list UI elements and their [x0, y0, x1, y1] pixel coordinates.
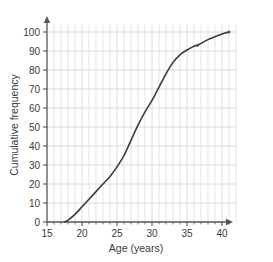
x-tick-labels: 152025303540 — [41, 228, 228, 239]
y-tick-label: 10 — [29, 198, 41, 209]
x-tick-label: 30 — [146, 228, 158, 239]
y-tick-labels: 0102030405060708090100 — [23, 27, 40, 228]
y-tick-label: 0 — [34, 217, 40, 228]
y-tick-label: 50 — [29, 122, 41, 133]
y-tick-label: 80 — [29, 65, 41, 76]
x-tick-label: 15 — [41, 228, 53, 239]
cumulative-frequency-chart: 152025303540 0102030405060708090100 Age … — [0, 0, 273, 262]
x-axis-arrow-icon — [226, 219, 233, 225]
x-tick-label: 40 — [216, 228, 228, 239]
y-tick-label: 30 — [29, 160, 41, 171]
x-tick-label: 35 — [181, 228, 193, 239]
data-point-marker — [228, 31, 231, 34]
x-tick-label: 25 — [111, 228, 123, 239]
y-tick-label: 100 — [23, 27, 40, 38]
x-tick-label: 20 — [76, 228, 88, 239]
y-tick-label: 90 — [29, 46, 41, 57]
y-tick-label: 40 — [29, 141, 41, 152]
y-axis-title: Cumulative frequency — [8, 73, 20, 175]
chart-canvas: 152025303540 0102030405060708090100 Age … — [0, 0, 273, 262]
y-tick-label: 70 — [29, 84, 41, 95]
grid-lines — [47, 24, 236, 222]
y-tick-label: 20 — [29, 179, 41, 190]
y-axis-arrow-icon — [44, 16, 50, 23]
axis-lines — [44, 16, 233, 225]
data-point-marker — [196, 44, 199, 47]
y-tick-label: 60 — [29, 103, 41, 114]
x-axis-title: Age (years) — [109, 242, 163, 254]
